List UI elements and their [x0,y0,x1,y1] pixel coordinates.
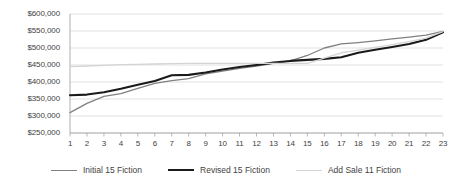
series-line [70,31,443,112]
x-axis-tick-label: 10 [215,139,231,148]
legend-label: Revised 15 Fiction [200,165,270,175]
x-axis-tick-label: 15 [299,139,315,148]
x-axis-tick-label: 9 [198,139,214,148]
legend-swatch [51,170,77,171]
x-axis-tick-label: 5 [130,139,146,148]
x-axis-tick-label: 23 [435,139,451,148]
x-axis-tick-label: 3 [96,139,112,148]
legend-swatch [168,169,194,171]
series-lines [70,31,443,112]
x-axis-tick-label: 7 [164,139,180,148]
x-axis-tick-label: 1 [62,139,78,148]
legend-item[interactable]: Initial 15 Fiction [51,165,142,175]
chart-legend: Initial 15 FictionRevised 15 FictionAdd … [0,160,452,180]
x-axis-tick-label: 14 [282,139,298,148]
x-axis-tick-label: 6 [147,139,163,148]
x-axis-tick-label: 4 [113,139,129,148]
x-axis-tick-label: 22 [418,139,434,148]
x-axis-tick-label: 16 [316,139,332,148]
legend-swatch [296,170,322,171]
x-axis-tick-label: 13 [265,139,281,148]
legend-label: Add Sale 11 Fiction [328,165,401,175]
x-axis-tick-label: 12 [249,139,265,148]
x-axis-tick-label: 11 [232,139,248,148]
x-axis-ticks [70,133,443,137]
plot-area [0,0,452,183]
x-axis-tick-label: 20 [384,139,400,148]
x-axis-tick-label: 8 [181,139,197,148]
line-chart: $600,000$550,000$500,000$450,000$400,000… [0,0,452,183]
legend-item[interactable]: Revised 15 Fiction [168,165,270,175]
x-axis-tick-label: 2 [79,139,95,148]
gridlines [70,14,443,133]
x-axis-tick-label: 17 [333,139,349,148]
legend-label: Initial 15 Fiction [83,165,142,175]
axis-lines [70,14,443,133]
series-line [70,32,443,67]
legend-item[interactable]: Add Sale 11 Fiction [296,165,401,175]
x-axis-tick-label: 21 [401,139,417,148]
x-axis-tick-label: 18 [350,139,366,148]
x-axis-tick-label: 19 [367,139,383,148]
